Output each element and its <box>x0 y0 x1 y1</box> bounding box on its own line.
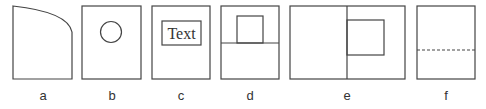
label-f: f <box>416 88 476 103</box>
label-d: d <box>220 88 280 103</box>
panel-f-shape <box>417 6 475 79</box>
panel-b-shape <box>82 6 141 79</box>
label-a: a <box>13 88 73 103</box>
panel-c-shape: Text <box>152 6 210 79</box>
circle-shape <box>101 22 122 43</box>
panel-e-shape <box>290 6 405 79</box>
label-e: e <box>317 88 377 103</box>
label-b: b <box>82 88 142 103</box>
label-c: c <box>151 88 211 103</box>
panel-a-shape <box>13 6 72 79</box>
panel-d-shape <box>221 6 279 79</box>
text-box-label: Text <box>167 25 196 42</box>
